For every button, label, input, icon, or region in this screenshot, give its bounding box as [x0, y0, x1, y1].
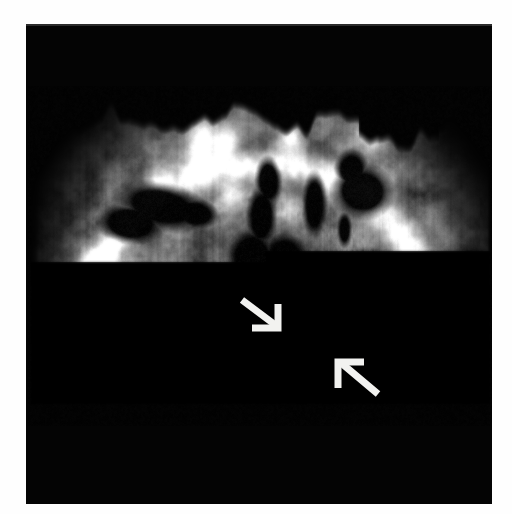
- medical-scan-image: [28, 86, 492, 426]
- figure-page: [0, 0, 512, 514]
- panel-top-sheen: [26, 24, 492, 26]
- scan-figure-panel: [26, 24, 492, 504]
- scan-viewport: [28, 86, 492, 426]
